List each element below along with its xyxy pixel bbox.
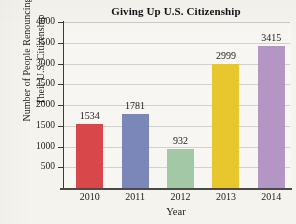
y-axis-tick-mark xyxy=(58,64,64,65)
y-axis-tick-label: 3500 xyxy=(24,37,55,47)
bar-value-label: 2999 xyxy=(203,50,249,61)
y-axis-tick-mark xyxy=(58,167,64,168)
chart-title: Giving Up U.S. Citizenship xyxy=(60,5,292,17)
x-axis-tick-label: 2012 xyxy=(158,191,204,202)
y-axis-tick-label: 2000 xyxy=(24,99,55,109)
x-axis-tick-label: 2011 xyxy=(112,191,158,202)
gridline xyxy=(63,84,290,85)
y-axis-tick-label: 2500 xyxy=(24,78,55,88)
y-axis-tick-mark xyxy=(58,22,64,23)
x-axis-tick-label: 2013 xyxy=(203,191,249,202)
y-axis-tick-label: 500 xyxy=(24,161,55,171)
bar-value-label: 1534 xyxy=(67,110,113,121)
gridline xyxy=(63,64,290,65)
bar[interactable] xyxy=(212,64,239,188)
x-axis-tick-label: 2010 xyxy=(67,191,113,202)
bar-value-label: 3415 xyxy=(248,32,294,43)
x-axis-line xyxy=(60,188,292,190)
bar[interactable] xyxy=(122,114,149,188)
y-axis-tick-mark xyxy=(58,84,64,85)
plot-area xyxy=(63,22,290,188)
bar[interactable] xyxy=(167,149,194,188)
y-axis-tick-label: 4000 xyxy=(24,16,55,26)
y-axis-tick-mark xyxy=(58,105,64,106)
bar[interactable] xyxy=(76,124,103,188)
x-axis-tick-label: 2014 xyxy=(248,191,294,202)
y-axis-tick-label: 1000 xyxy=(24,141,55,151)
x-axis-title: Year xyxy=(60,206,292,217)
gridline xyxy=(63,105,290,106)
y-axis-tick-label: 3000 xyxy=(24,58,55,68)
y-axis-tick-mark xyxy=(58,147,64,148)
bar-value-label: 932 xyxy=(158,135,204,146)
y-axis-tick-mark xyxy=(58,126,64,127)
y-axis-tick-mark xyxy=(58,43,64,44)
gridline xyxy=(63,22,290,23)
y-axis-tick-label: 1500 xyxy=(24,120,55,130)
bar[interactable] xyxy=(258,46,285,188)
bar-value-label: 1781 xyxy=(112,100,158,111)
bar-chart-figure: Giving Up U.S. Citizenship Number of Peo… xyxy=(0,0,296,224)
